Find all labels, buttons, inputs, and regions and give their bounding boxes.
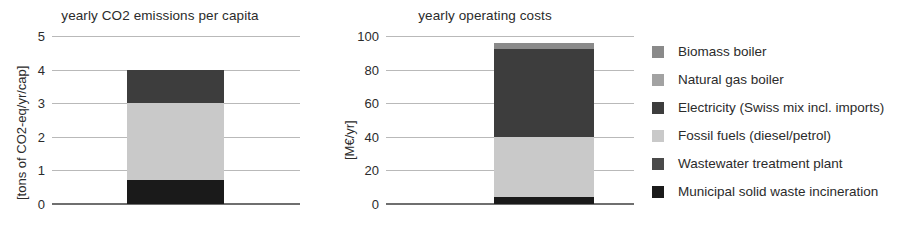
legend-item[interactable]: Biomass boiler bbox=[652, 38, 913, 66]
bar-segment bbox=[494, 197, 594, 204]
legend-item-label: Biomass boiler bbox=[678, 45, 767, 59]
bar-segment bbox=[127, 180, 224, 204]
y-axis-tick-label: 4 bbox=[38, 63, 52, 76]
y-axis-tick-label: 2 bbox=[38, 130, 52, 143]
y-axis-tick-label: 0 bbox=[372, 198, 386, 211]
bar-segment bbox=[494, 43, 594, 50]
plot-area-costs: 020406080100 bbox=[386, 36, 634, 204]
legend-item-label: Municipal solid waste incineration bbox=[678, 185, 878, 199]
y-axis-tick-label: 20 bbox=[365, 164, 386, 177]
bar-segment bbox=[127, 103, 224, 180]
y-axis-tick-label: 100 bbox=[357, 30, 386, 43]
legend-item[interactable]: Electricity (Swiss mix incl. imports) bbox=[652, 94, 913, 122]
y-axis-tick-label: 40 bbox=[365, 130, 386, 143]
chart-title-costs: yearly operating costs bbox=[320, 8, 650, 23]
plot-area-emissions: 012345 bbox=[52, 36, 300, 204]
legend-item[interactable]: Municipal solid waste incineration bbox=[652, 178, 913, 206]
legend-item[interactable]: Fossil fuels (diesel/petrol) bbox=[652, 122, 913, 150]
legend-swatch-icon bbox=[652, 74, 664, 86]
chart-panel-emissions: yearly CO2 emissions per capita [tons of… bbox=[0, 0, 320, 245]
legend: Biomass boilerNatural gas boilerElectric… bbox=[652, 38, 913, 206]
legend-item-label: Natural gas boiler bbox=[678, 73, 784, 87]
legend-item-label: Electricity (Swiss mix incl. imports) bbox=[678, 101, 884, 115]
y-axis-tick-label: 60 bbox=[365, 97, 386, 110]
chart-panel-costs: yearly operating costs [M€/yr] 020406080… bbox=[320, 0, 650, 245]
y-axis-tick-label: 5 bbox=[38, 30, 52, 43]
legend-swatch-icon bbox=[652, 130, 664, 142]
y-axis-tick-label: 0 bbox=[38, 198, 52, 211]
bar-segment bbox=[127, 70, 224, 104]
stacked-bar bbox=[494, 36, 594, 204]
legend-item-label: Fossil fuels (diesel/petrol) bbox=[678, 129, 831, 143]
y-axis-tick-label: 80 bbox=[365, 63, 386, 76]
legend-swatch-icon bbox=[652, 186, 664, 198]
figure-root: yearly CO2 emissions per capita [tons of… bbox=[0, 0, 913, 245]
bar-segment bbox=[494, 137, 594, 197]
legend-swatch-icon bbox=[652, 158, 664, 170]
legend-item[interactable]: Natural gas boiler bbox=[652, 66, 913, 94]
bar-segment bbox=[494, 49, 594, 136]
chart-title-emissions: yearly CO2 emissions per capita bbox=[0, 8, 320, 23]
stacked-bar bbox=[127, 36, 224, 204]
y-axis-tick-label: 3 bbox=[38, 97, 52, 110]
y-axis-label-emissions: [tons of CO2-eq/yr/cap] bbox=[14, 66, 29, 200]
legend-swatch-icon bbox=[652, 102, 664, 114]
legend-item[interactable]: Wastewater treatment plant bbox=[652, 150, 913, 178]
y-axis-label-costs: [M€/yr] bbox=[342, 120, 357, 160]
plot-inner-costs: 020406080100 bbox=[386, 36, 634, 204]
legend-swatch-icon bbox=[652, 46, 664, 58]
legend-item-label: Wastewater treatment plant bbox=[678, 157, 843, 171]
y-axis-tick-label: 1 bbox=[38, 164, 52, 177]
plot-inner-emissions: 012345 bbox=[52, 36, 300, 204]
